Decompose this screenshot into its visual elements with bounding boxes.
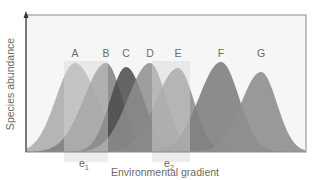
x-axis-label: Environmental gradient	[111, 166, 219, 178]
y-axis-label: Species abundance	[4, 38, 16, 130]
species-label-d: D	[146, 47, 154, 59]
sample-band-2	[152, 61, 190, 162]
species-label-a: A	[71, 47, 78, 59]
species-gradient-diagram: ABCDEFG e1e2 Species abundance Environme…	[0, 0, 314, 180]
species-label-c: C	[122, 47, 130, 59]
species-label-f: F	[218, 47, 224, 59]
sample-band-1	[64, 61, 108, 162]
species-label-g: G	[257, 47, 265, 59]
species-label-e: E	[174, 47, 181, 59]
species-label-b: B	[102, 47, 109, 59]
